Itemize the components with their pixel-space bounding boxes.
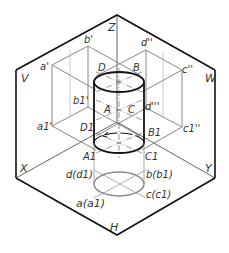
label-D: D	[98, 62, 106, 73]
h-projection-ellipse	[94, 172, 144, 196]
label-z: Z	[107, 21, 116, 34]
label-b-prime: b'	[84, 34, 93, 45]
label-w: W	[205, 72, 217, 85]
label-A: A	[103, 104, 111, 115]
label-a-a1: a(a1)	[76, 197, 105, 210]
label-c-dprime: c''	[182, 64, 193, 75]
label-h: H	[110, 221, 118, 234]
label-a1-prime: a1'	[37, 121, 52, 132]
label-c1-dprime: c1''	[183, 123, 200, 134]
label-C: C	[128, 104, 135, 115]
label-B: B	[133, 62, 140, 73]
label-x: X	[19, 162, 28, 175]
label-d-d1: d(d1)	[66, 169, 93, 180]
label-b-b1: b(b1)	[146, 169, 173, 180]
label-a-prime: a'	[40, 61, 49, 72]
projection-diagram: Z V W X Y H a' b' b1' a1' d'' c'' d''' c…	[0, 0, 229, 253]
label-y: Y	[205, 162, 213, 175]
label-d-dprime: d''	[141, 37, 153, 48]
label-A1: A1	[82, 151, 96, 162]
label-c-c1: c(c1)	[146, 189, 171, 200]
label-B1: B1	[148, 127, 161, 138]
label-C1: C1	[145, 151, 158, 162]
label-b1-prime: b1'	[73, 95, 88, 106]
v-plane-projection	[52, 46, 140, 150]
label-d1-dprime: d'''	[145, 101, 160, 112]
label-v: V	[21, 72, 30, 85]
label-D1: D1	[80, 122, 94, 133]
